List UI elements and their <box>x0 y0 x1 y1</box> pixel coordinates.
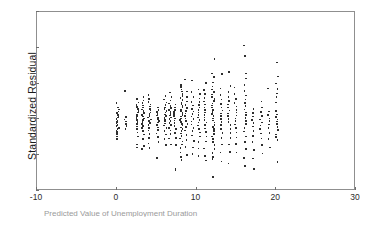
data-point <box>221 107 223 109</box>
data-point <box>259 119 261 121</box>
data-point <box>175 144 177 146</box>
data-point <box>277 88 279 90</box>
data-point <box>275 110 277 112</box>
data-point <box>182 107 184 109</box>
data-point <box>204 155 206 157</box>
data-point <box>214 58 216 60</box>
data-point <box>206 136 208 138</box>
data-point <box>252 116 254 118</box>
data-point <box>235 120 237 122</box>
data-point <box>230 85 232 87</box>
data-point <box>180 133 182 135</box>
data-point <box>186 101 188 103</box>
data-point <box>192 113 194 115</box>
data-point <box>261 144 263 146</box>
data-point <box>227 115 229 117</box>
data-point <box>170 144 172 146</box>
data-point <box>181 135 183 137</box>
data-point <box>198 122 200 124</box>
data-point <box>126 125 128 127</box>
data-point <box>228 96 230 98</box>
data-point <box>268 138 270 140</box>
data-point <box>244 141 246 143</box>
data-point <box>227 107 229 109</box>
data-point <box>228 100 230 102</box>
data-point <box>193 118 195 120</box>
data-point <box>212 158 214 160</box>
data-point <box>184 79 186 81</box>
data-point <box>211 73 213 75</box>
data-point <box>234 93 236 95</box>
y-tick-mark <box>36 118 39 119</box>
data-point <box>148 130 150 132</box>
data-point <box>276 62 278 64</box>
data-point <box>174 107 176 109</box>
data-point <box>136 147 138 149</box>
data-point <box>275 102 277 104</box>
data-point <box>252 112 254 114</box>
data-point <box>260 133 262 135</box>
data-point <box>228 163 230 165</box>
x-tick-mark <box>355 187 356 190</box>
data-point <box>245 136 247 138</box>
data-point <box>277 126 279 128</box>
data-point <box>186 154 188 156</box>
data-point <box>204 114 206 116</box>
data-point <box>275 136 277 138</box>
data-point <box>156 124 158 126</box>
x-tick-label: 0 <box>101 192 131 202</box>
data-point <box>191 121 193 123</box>
data-point <box>253 130 255 132</box>
data-point <box>213 76 215 78</box>
data-point <box>165 115 167 117</box>
data-point <box>236 152 238 154</box>
data-point <box>185 110 187 112</box>
data-point <box>192 105 194 107</box>
data-point <box>170 100 172 102</box>
data-point <box>230 128 232 130</box>
data-point <box>142 130 144 132</box>
data-point <box>222 132 224 134</box>
data-point <box>185 146 187 148</box>
data-point <box>243 45 245 47</box>
data-point <box>267 114 269 116</box>
data-point <box>175 169 177 171</box>
data-point <box>212 86 214 88</box>
data-point <box>156 157 158 159</box>
data-point <box>205 160 207 162</box>
data-point <box>199 107 201 109</box>
data-point <box>261 101 263 103</box>
data-point <box>275 83 277 85</box>
data-point <box>179 138 181 140</box>
data-point <box>181 159 183 161</box>
data-point <box>192 153 194 155</box>
data-point <box>117 117 119 119</box>
data-point <box>198 112 200 114</box>
data-point <box>116 138 118 140</box>
data-point <box>244 55 246 57</box>
data-point <box>212 176 214 178</box>
data-point <box>170 117 172 119</box>
data-point <box>137 132 139 134</box>
data-point <box>180 147 182 149</box>
data-point <box>251 119 253 121</box>
data-point <box>203 101 205 103</box>
data-point <box>157 136 159 138</box>
data-point <box>212 141 214 143</box>
data-point <box>175 104 177 106</box>
data-point <box>262 153 264 155</box>
data-point <box>187 123 189 125</box>
data-point <box>260 125 262 127</box>
data-point <box>245 148 247 150</box>
data-point <box>169 92 171 94</box>
data-point <box>277 161 279 163</box>
data-point <box>150 119 152 121</box>
data-point <box>181 144 183 146</box>
data-point <box>199 93 201 95</box>
data-point <box>244 84 246 86</box>
data-point <box>156 133 158 135</box>
data-point <box>245 73 247 75</box>
data-point <box>199 98 201 100</box>
data-point <box>277 129 279 131</box>
data-point <box>269 118 271 120</box>
